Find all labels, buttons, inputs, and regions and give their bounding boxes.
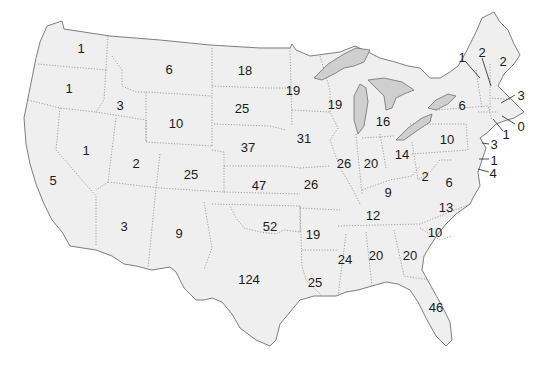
state-label-ks: 47	[252, 179, 266, 192]
state-label-pa: 10	[440, 133, 454, 146]
state-label-nh: 2	[478, 46, 485, 59]
state-label-fl: 46	[429, 301, 443, 314]
state-label-nd: 18	[238, 64, 252, 77]
state-label-va: 6	[445, 176, 452, 189]
state-label-wi: 19	[328, 98, 342, 111]
state-label-or: 1	[65, 82, 72, 95]
state-label-nc: 13	[439, 201, 453, 214]
state-label-mi: 16	[376, 115, 390, 128]
state-label-tn: 12	[366, 209, 380, 222]
state-label-co: 25	[184, 168, 198, 181]
state-label-ma: 3	[517, 89, 524, 102]
state-label-ny: 6	[458, 99, 465, 112]
state-label-sd: 25	[235, 102, 249, 115]
state-label-nm: 9	[175, 227, 182, 240]
state-label-md: 4	[489, 167, 496, 180]
us-map	[0, 0, 550, 371]
state-label-ri: 0	[517, 120, 524, 133]
state-label-tx: 124	[238, 273, 260, 286]
state-label-wv: 2	[421, 170, 428, 183]
state-label-al: 20	[369, 249, 383, 262]
state-label-me: 2	[499, 55, 506, 68]
state-label-mn: 19	[286, 84, 300, 97]
state-label-ne: 37	[241, 141, 255, 154]
state-label-mt: 6	[165, 63, 172, 76]
state-label-ut: 2	[132, 157, 139, 170]
state-label-mo: 26	[304, 178, 318, 191]
state-label-ar: 19	[306, 228, 320, 241]
state-label-wa: 1	[77, 42, 84, 55]
state-label-il: 26	[337, 157, 351, 170]
state-label-id: 3	[116, 99, 123, 112]
state-label-nj: 3	[490, 138, 497, 151]
state-label-in: 20	[364, 157, 378, 170]
state-label-la: 25	[308, 276, 322, 289]
state-label-nv: 1	[82, 144, 89, 157]
state-label-oh: 14	[395, 148, 409, 161]
state-label-ia: 31	[297, 132, 311, 145]
state-label-wy: 10	[169, 117, 183, 130]
state-label-ca: 5	[49, 174, 56, 187]
state-label-ct: 1	[502, 128, 509, 141]
state-label-az: 3	[120, 220, 127, 233]
state-label-sc: 10	[428, 226, 442, 239]
state-label-ky: 9	[384, 186, 391, 199]
state-label-ms: 24	[338, 253, 352, 266]
state-label-ok: 52	[263, 220, 277, 233]
state-label-vt: 1	[458, 51, 465, 64]
state-label-ga: 20	[403, 249, 417, 262]
